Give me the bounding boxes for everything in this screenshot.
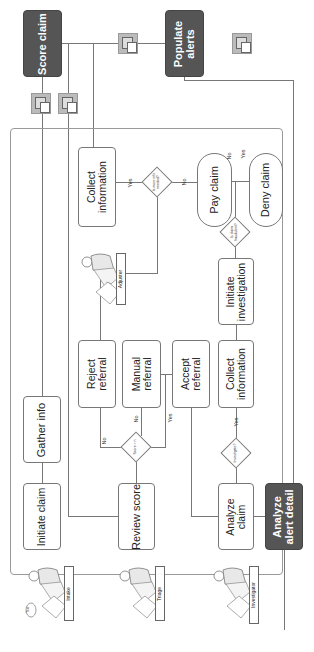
deny-claim-box[interactable]: Deny claim [249,153,283,227]
analyze-claim-label: Analyze claim [225,487,247,547]
manual-referral-box[interactable]: Manual referral [122,340,161,408]
investigator-figure: Investigator [207,560,262,625]
role-label-box: Triage [155,566,165,621]
edge-label-no: No [101,437,107,444]
edge-label-yes: Yes [127,179,133,188]
collect-information-adjuster-box[interactable]: Collect information [78,147,116,227]
initiate-claim-label: Initiate claim [36,487,47,545]
initiate-investigation-label: Initiate investigation [225,259,247,325]
collect-information-label: Collect information [225,341,247,407]
edge-label-no: No [181,178,187,185]
pay-claim-box[interactable]: Pay claim [197,153,232,227]
role-label-box: Investigator [249,566,259,624]
accept-referral-label: Accept referral [180,344,202,404]
edge-label-yes: Yes [167,414,173,423]
collect-information-investigator-box[interactable]: Collect information [218,340,254,408]
analyze-alert-detail-box[interactable]: Analyze alert detail [265,483,303,550]
gather-info-box[interactable]: Gather info [23,396,61,463]
document-icon [58,93,78,114]
document-icon [232,33,252,54]
connector-line [293,80,294,483]
edge-label-no: No [133,415,139,422]
review-score-label: Review score [131,483,143,549]
connector-line [184,80,294,81]
adjuster-label: Adjuster [118,270,123,288]
deny-claim-label: Deny claim [260,163,272,217]
investigate-decision-label: Investigate? [234,444,238,463]
manual-referral-label: Manual referral [130,344,152,404]
edge-label-yes: Yes [240,150,246,159]
intake-speech-text: Text [27,607,31,613]
score-decision-label: Score > n [134,439,138,454]
document-icon [118,33,138,54]
populate-alerts-box[interactable]: Populate alerts [165,10,204,77]
edge-label-no: No [226,152,232,159]
analyze-claim-box[interactable]: Analyze claim [218,483,254,550]
document-icon [31,93,51,114]
pay-claim-label: Pay claim [209,166,221,214]
score-claim-label: Score claim [37,13,49,75]
initiate-claim-box[interactable]: Initiate claim [23,483,61,550]
populate-alerts-label: Populate alerts [173,14,196,74]
review-score-box[interactable]: Review score [118,483,155,550]
collect-information-label: Collect information [86,151,108,223]
triage-label: Triage [157,587,162,601]
investigator-label: Investigator [251,582,256,608]
initiate-investigation-box[interactable]: Initiate investigation [218,258,254,325]
score-claim-box[interactable]: Score claim [23,10,62,77]
more-info-decision-label: Is more info needed? [153,170,161,194]
analyze-alert-detail-label: Analyze alert detail [272,484,295,550]
triage-figure: Triage [113,560,168,625]
adjuster-figure: Adjuster [78,248,133,310]
connector-line [62,43,165,44]
edge-label-yes: Yes [233,418,239,427]
gather-info-label: Gather info [36,402,48,456]
intake-label: Intake [66,587,71,601]
reject-referral-box[interactable]: Reject referral [78,340,116,408]
accept-referral-box[interactable]: Accept referral [172,340,210,408]
connector-line [284,550,285,630]
fraudulent-decision-label: Is claim fraudulent? [231,220,239,244]
role-label-box: Adjuster [116,253,126,305]
reject-referral-label: Reject referral [86,344,108,404]
role-label-box: Intake [64,566,74,621]
intake-figure: Text Intake [22,560,77,625]
